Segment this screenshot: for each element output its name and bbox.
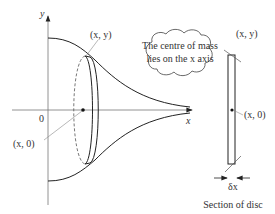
- section-point-top-label: (x, y): [236, 28, 258, 40]
- callout-line-1: The centre of mass: [142, 40, 218, 51]
- section-point-axis-label: (x, 0): [244, 109, 266, 121]
- callout-line-2: lies on the x axis: [146, 53, 213, 64]
- thickness-label: δx: [228, 181, 238, 192]
- solid-of-revolution-diagram: y x 0 (x, y) (x, 0) The centre of mass l…: [0, 0, 275, 214]
- origin-label: 0: [39, 113, 44, 124]
- x-axis-label: x: [185, 115, 191, 126]
- point-axis-label: (x, 0): [13, 138, 35, 150]
- leader-top: [86, 40, 98, 56]
- section-caption: Section of disc: [203, 199, 263, 210]
- leader-axis: [44, 111, 82, 140]
- lower-curve: [48, 113, 190, 181]
- point-top-label: (x, y): [90, 29, 112, 41]
- y-axis-label: y: [39, 8, 45, 19]
